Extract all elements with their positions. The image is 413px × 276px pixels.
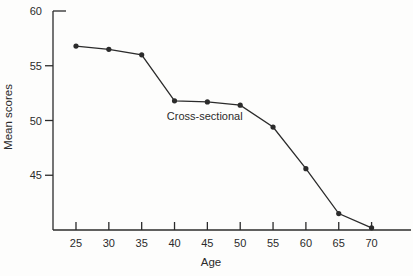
data-points xyxy=(73,43,374,230)
x-tick-label: 40 xyxy=(168,237,180,249)
x-tick-label: 65 xyxy=(333,237,345,249)
data-point-marker xyxy=(238,103,243,108)
x-tick-label: 45 xyxy=(201,237,213,249)
x-axis: 25303540455055606570 xyxy=(53,222,411,249)
y-tick-label: 50 xyxy=(30,115,42,127)
data-point-marker xyxy=(139,52,144,57)
y-tick-label: 55 xyxy=(30,60,42,72)
chart-canvas: 45505560 25303540455055606570 Mean score… xyxy=(0,0,413,276)
y-tick-label: 45 xyxy=(30,169,42,181)
data-polyline xyxy=(76,46,372,228)
data-point-marker xyxy=(172,98,177,103)
y-tick-label: 60 xyxy=(30,5,42,17)
x-tick-label: 60 xyxy=(300,237,312,249)
data-point-marker xyxy=(73,43,78,48)
data-point-marker xyxy=(270,124,275,129)
data-line xyxy=(76,46,372,228)
data-point-marker xyxy=(336,211,341,216)
x-tick-label: 25 xyxy=(70,237,82,249)
x-tick-label: 35 xyxy=(136,237,148,249)
data-point-marker xyxy=(369,225,374,230)
y-axis: 45505560 xyxy=(30,5,66,230)
y-axis-title: Mean scores xyxy=(2,84,14,150)
series-annotation: Cross-sectional xyxy=(167,110,243,122)
x-tick-label: 50 xyxy=(234,237,246,249)
x-tick-label: 70 xyxy=(365,237,377,249)
data-point-marker xyxy=(106,47,111,52)
data-point-marker xyxy=(303,166,308,171)
x-axis-title: Age xyxy=(201,256,221,268)
chart-figure: 45505560 25303540455055606570 Mean score… xyxy=(0,0,413,276)
x-tick-label: 30 xyxy=(103,237,115,249)
x-tick-label: 55 xyxy=(267,237,279,249)
data-point-marker xyxy=(205,99,210,104)
